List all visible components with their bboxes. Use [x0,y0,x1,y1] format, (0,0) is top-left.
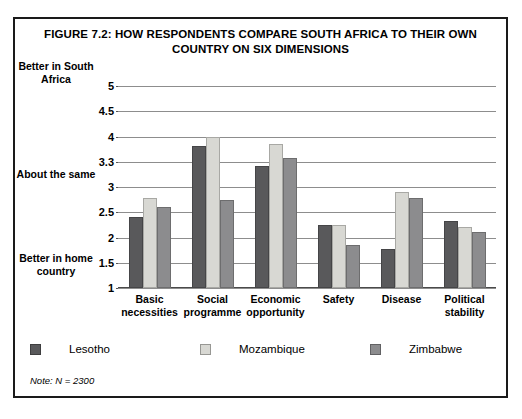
bar-group [370,86,433,288]
bar[interactable] [269,144,283,288]
bar[interactable] [381,249,395,288]
category-label: Social programme [181,293,244,319]
x-axis-category-labels: Basic necessitiesSocial programmeEconomi… [118,293,496,319]
category-label: Economic opportunity [244,293,307,319]
bar-group [181,86,244,288]
bar[interactable] [409,198,423,288]
gridline [118,288,496,289]
bar[interactable] [157,207,171,288]
bar[interactable] [346,245,360,288]
bar[interactable] [472,232,486,288]
category-label: Political stability [433,293,496,319]
category-label: Safety [307,293,370,319]
legend-label: Mozambique [239,343,305,355]
bar[interactable] [395,192,409,288]
chart-legend: LesothoMozambiqueZimbabwe [30,343,490,355]
legend-swatch-icon [200,344,211,355]
legend-swatch-icon [370,344,381,355]
bar-groups [118,86,496,288]
category-label: Disease [370,293,433,319]
bar[interactable] [143,198,157,288]
category-label: Basic necessities [118,293,181,319]
bar[interactable] [255,166,269,288]
legend-item[interactable]: Lesotho [30,343,200,355]
bar[interactable] [192,146,206,288]
legend-item[interactable]: Zimbabwe [370,343,462,355]
bar[interactable] [129,217,143,288]
bar[interactable] [444,221,458,288]
legend-swatch-icon [30,344,41,355]
bar-group [433,86,496,288]
bar[interactable] [458,227,472,288]
legend-label: Lesotho [69,343,110,355]
legend-label: Zimbabwe [409,343,462,355]
figure-container: FIGURE 7.2: HOW RESPONDENTS COMPARE SOUT… [0,0,522,419]
legend-item[interactable]: Mozambique [200,343,370,355]
bar-group [118,86,181,288]
bar[interactable] [206,137,220,289]
bar-group [244,86,307,288]
bar[interactable] [332,225,346,288]
bar[interactable] [283,158,297,288]
bar[interactable] [220,200,234,288]
figure-note: Note: N = 2300 [30,375,94,386]
bar[interactable] [318,225,332,288]
bar-group [307,86,370,288]
